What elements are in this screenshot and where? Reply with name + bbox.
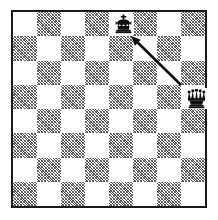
- board-square-b6[interactable]: [37, 61, 61, 85]
- board-square-f4[interactable]: [133, 109, 157, 133]
- board-square-g8[interactable]: [157, 12, 181, 36]
- board-square-b7[interactable]: [37, 36, 61, 60]
- board-square-b1[interactable]: [37, 182, 61, 206]
- board-square-h7[interactable]: [181, 36, 205, 60]
- board-square-a4[interactable]: [13, 109, 37, 133]
- board-square-e6[interactable]: [109, 61, 133, 85]
- board-square-g2[interactable]: [157, 158, 181, 182]
- board-square-h8[interactable]: [181, 12, 205, 36]
- board-square-a6[interactable]: [13, 61, 37, 85]
- board-square-c6[interactable]: [61, 61, 85, 85]
- board-square-g3[interactable]: [157, 133, 181, 157]
- board-square-a1[interactable]: [13, 182, 37, 206]
- board-square-f1[interactable]: [133, 182, 157, 206]
- board-square-d8[interactable]: [85, 12, 109, 36]
- board-square-h6[interactable]: [181, 61, 205, 85]
- board-square-d3[interactable]: [85, 133, 109, 157]
- board-square-e5[interactable]: [109, 85, 133, 109]
- board-square-e7[interactable]: [109, 36, 133, 60]
- board-square-h2[interactable]: [181, 158, 205, 182]
- board-square-f6[interactable]: [133, 61, 157, 85]
- board-square-a2[interactable]: [13, 158, 37, 182]
- board-square-g4[interactable]: [157, 109, 181, 133]
- queen-icon: [187, 89, 206, 109]
- board-square-a8[interactable]: [13, 12, 37, 36]
- board-square-h4[interactable]: [181, 109, 205, 133]
- board-squares-grid: [13, 12, 205, 206]
- chessboard[interactable]: [11, 10, 207, 208]
- diagram-title: Chess diagram: queen attacking king alon…: [0, 0, 1, 1]
- board-square-f2[interactable]: [133, 158, 157, 182]
- black-queen-piece[interactable]: [185, 86, 210, 111]
- board-square-h1[interactable]: [181, 182, 205, 206]
- board-square-c3[interactable]: [61, 133, 85, 157]
- board-square-d7[interactable]: [85, 36, 109, 60]
- board-square-e2[interactable]: [109, 158, 133, 182]
- board-square-g5[interactable]: [157, 85, 181, 109]
- board-square-c1[interactable]: [61, 182, 85, 206]
- board-square-d6[interactable]: [85, 61, 109, 85]
- board-square-e4[interactable]: [109, 109, 133, 133]
- board-square-c5[interactable]: [61, 85, 85, 109]
- king-icon: [114, 14, 133, 34]
- board-square-c4[interactable]: [61, 109, 85, 133]
- board-square-a5[interactable]: [13, 85, 37, 109]
- board-square-g6[interactable]: [157, 61, 181, 85]
- board-square-f8[interactable]: [133, 12, 157, 36]
- board-square-a7[interactable]: [13, 36, 37, 60]
- board-square-g7[interactable]: [157, 36, 181, 60]
- board-square-f5[interactable]: [133, 85, 157, 109]
- board-square-d5[interactable]: [85, 85, 109, 109]
- board-square-c2[interactable]: [61, 158, 85, 182]
- board-square-e3[interactable]: [109, 133, 133, 157]
- board-square-d2[interactable]: [85, 158, 109, 182]
- board-square-h3[interactable]: [181, 133, 205, 157]
- board-square-d1[interactable]: [85, 182, 109, 206]
- board-square-b8[interactable]: [37, 12, 61, 36]
- board-square-b3[interactable]: [37, 133, 61, 157]
- chess-diagram: Chess diagram: queen attacking king alon…: [0, 0, 218, 220]
- board-square-c8[interactable]: [61, 12, 85, 36]
- board-square-c7[interactable]: [61, 36, 85, 60]
- board-square-a3[interactable]: [13, 133, 37, 157]
- board-square-e1[interactable]: [109, 182, 133, 206]
- board-square-f7[interactable]: [133, 36, 157, 60]
- board-square-b4[interactable]: [37, 109, 61, 133]
- black-king-piece[interactable]: [111, 12, 136, 37]
- board-square-g1[interactable]: [157, 182, 181, 206]
- board-square-b5[interactable]: [37, 85, 61, 109]
- board-square-d4[interactable]: [85, 109, 109, 133]
- board-square-b2[interactable]: [37, 158, 61, 182]
- board-square-f3[interactable]: [133, 133, 157, 157]
